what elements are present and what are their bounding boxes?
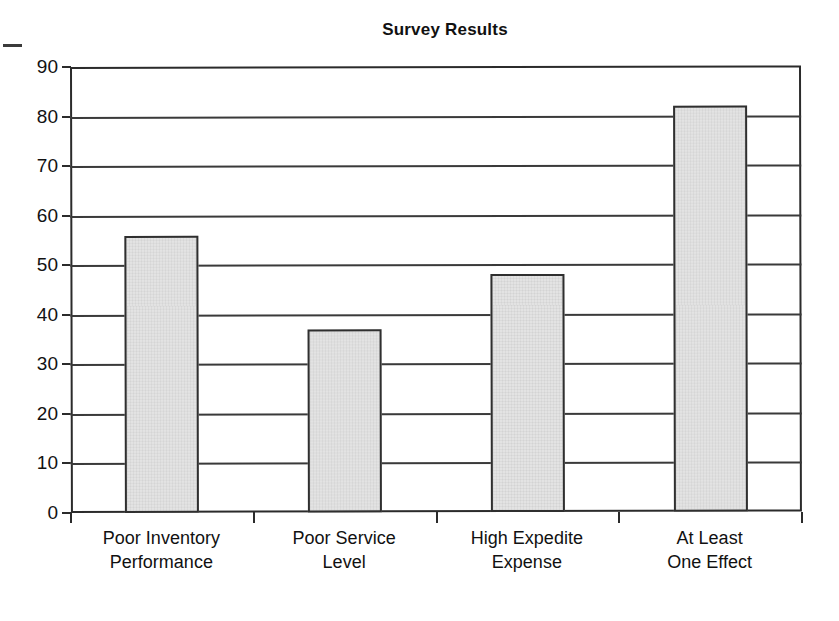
bar-chart-figure: Survey Results 9080706050403020100 Poor … (0, 0, 839, 621)
chart-title: Survey Results (0, 20, 839, 40)
y-tick-label: 50 (37, 254, 58, 276)
y-tick-label: 20 (37, 403, 58, 425)
x-tick-mark (436, 512, 438, 523)
x-category-label-line: Performance (70, 551, 253, 575)
y-tick-label: 80 (37, 106, 58, 128)
x-category-label: High ExpediteExpense (436, 527, 619, 575)
bar (125, 235, 200, 513)
x-tick-mark (618, 512, 620, 523)
x-tick-mark (253, 512, 255, 523)
x-category-label: Poor ServiceLevel (253, 527, 436, 575)
x-category-label-line: Level (253, 551, 436, 575)
x-category-label-line: Expense (436, 551, 619, 575)
x-category-label-line: Poor Service (253, 527, 436, 551)
y-tick-label: 10 (37, 452, 58, 474)
bar (308, 329, 382, 512)
bar (490, 274, 564, 512)
y-tick-label: 30 (37, 353, 58, 375)
y-tick-mark (62, 462, 71, 464)
x-category-label-line: Poor Inventory (70, 527, 253, 551)
x-tick-mark (801, 512, 803, 523)
plot-area (70, 65, 802, 513)
x-category-label-line: High Expedite (436, 527, 619, 551)
x-category-label: Poor InventoryPerformance (70, 527, 253, 575)
y-tick-label: 40 (37, 304, 58, 326)
x-category-label-line: One Effect (618, 551, 801, 575)
y-tick-mark (62, 413, 71, 415)
x-category-label-line: At Least (618, 527, 801, 551)
y-tick-label: 70 (37, 155, 58, 177)
y-tick-label: 60 (37, 205, 58, 227)
y-tick-label: 90 (37, 56, 58, 78)
x-tick-mark (70, 512, 72, 523)
y-axis: 9080706050403020100 (0, 0, 70, 621)
bar (673, 105, 748, 511)
y-tick-label: 0 (47, 502, 58, 524)
x-category-label: At LeastOne Effect (618, 527, 801, 575)
